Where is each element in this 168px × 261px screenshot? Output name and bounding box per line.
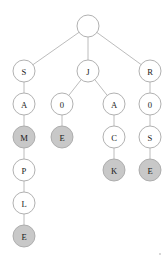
tree-graph-canvas: SJRA0A0MECSPKELE	[0, 0, 168, 261]
tree-node[interactable]: E	[51, 126, 73, 148]
tree-node[interactable]: A	[103, 93, 125, 115]
tree-node-circle[interactable]	[139, 93, 161, 115]
tree-node-circle-highlighted[interactable]	[139, 159, 161, 181]
tree-node[interactable]: 0	[139, 93, 161, 115]
tree-node-circle[interactable]	[13, 159, 35, 181]
tree-node[interactable]: J	[77, 60, 99, 82]
tree-node-circle-highlighted[interactable]	[13, 225, 35, 247]
tree-node-circle[interactable]	[77, 15, 99, 37]
tree-node-circle[interactable]	[103, 93, 125, 115]
corner-artifact-mark	[159, 253, 161, 255]
tree-node[interactable]: C	[103, 126, 125, 148]
tree-node[interactable]: 0	[51, 93, 73, 115]
tree-node[interactable]	[77, 15, 99, 37]
tree-node[interactable]: E	[139, 159, 161, 181]
tree-node-circle-highlighted[interactable]	[13, 126, 35, 148]
tree-node-circle-highlighted[interactable]	[51, 126, 73, 148]
tree-node[interactable]: P	[13, 159, 35, 181]
tree-node[interactable]: M	[13, 126, 35, 148]
tree-edge	[95, 80, 107, 96]
tree-node[interactable]: E	[13, 225, 35, 247]
tree-edge	[33, 32, 79, 64]
tree-node[interactable]: R	[139, 60, 161, 82]
tree-node[interactable]: A	[13, 93, 35, 115]
tree-node-circle-highlighted[interactable]	[103, 159, 125, 181]
tree-node-circle[interactable]	[13, 60, 35, 82]
tree-node-circle[interactable]	[139, 60, 161, 82]
tree-node-circle[interactable]	[51, 93, 73, 115]
node-layer: SJRA0A0MECSPKELE	[13, 15, 161, 247]
tree-diagram: SJRA0A0MECSPKELE	[0, 0, 168, 261]
tree-node-circle[interactable]	[77, 60, 99, 82]
tree-node-circle[interactable]	[13, 93, 35, 115]
tree-node-circle[interactable]	[103, 126, 125, 148]
tree-node-circle[interactable]	[139, 126, 161, 148]
tree-edge	[97, 32, 141, 64]
tree-node-circle[interactable]	[13, 192, 35, 214]
tree-edge	[69, 80, 81, 96]
tree-node[interactable]: L	[13, 192, 35, 214]
tree-node[interactable]: S	[13, 60, 35, 82]
tree-node[interactable]: S	[139, 126, 161, 148]
tree-node[interactable]: K	[103, 159, 125, 181]
